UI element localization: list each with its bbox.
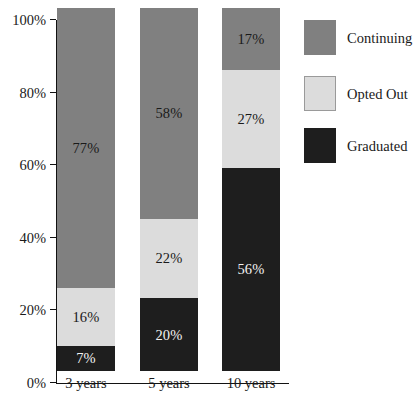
y-axis-tick-label: 100% bbox=[12, 10, 46, 30]
bar-segment-label: 56% bbox=[237, 261, 264, 277]
bar-group[interactable]: 17%27%56%10 years bbox=[222, 8, 280, 371]
legend-label: Graduated bbox=[347, 137, 407, 155]
bar-group[interactable]: 58%22%20%5 years bbox=[140, 8, 198, 371]
bar-segment-label: 7% bbox=[76, 350, 96, 366]
y-axis-tick-label: 80% bbox=[19, 83, 46, 103]
y-axis-tick-label: 0% bbox=[27, 373, 46, 393]
y-axis-tick-label: 40% bbox=[19, 228, 46, 248]
x-axis-category-label: 5 years bbox=[128, 374, 210, 392]
bar-segment[interactable]: 58% bbox=[140, 8, 198, 219]
stacked-bar[interactable]: 77%16%7% bbox=[57, 8, 115, 371]
legend-item[interactable]: Continuing bbox=[304, 20, 412, 55]
legend-label: Continuing bbox=[347, 29, 412, 47]
bar-segment[interactable]: 7% bbox=[57, 346, 115, 371]
legend-color-swatch bbox=[304, 76, 336, 111]
bar-group[interactable]: 77%16%7%3 years bbox=[57, 8, 115, 371]
bar-segment[interactable]: 56% bbox=[222, 168, 280, 371]
legend-color-swatch bbox=[304, 20, 336, 55]
x-axis-category-label: 10 years bbox=[210, 374, 292, 392]
bar-segment-label: 22% bbox=[155, 250, 182, 266]
bar-segment[interactable]: 17% bbox=[222, 8, 280, 70]
y-axis-tick-mark bbox=[50, 19, 56, 20]
legend-label: Opted Out bbox=[347, 85, 408, 103]
plot-area: 100%80%60%40%20%0% 77%16%7%3 years58%22%… bbox=[0, 0, 300, 400]
bar-segment-label: 16% bbox=[72, 309, 99, 325]
bar-segment-label: 27% bbox=[237, 111, 264, 127]
y-axis-tick-mark bbox=[50, 237, 56, 238]
bar-segment-label: 58% bbox=[155, 105, 182, 121]
bar-segment[interactable]: 20% bbox=[140, 298, 198, 371]
y-axis-tick-label: 20% bbox=[19, 300, 46, 320]
bar-segment[interactable]: 22% bbox=[140, 219, 198, 299]
bar-segment-label: 77% bbox=[72, 140, 99, 156]
caption-strip bbox=[0, 402, 417, 412]
stacked-bar-chart: 100%80%60%40%20%0% 77%16%7%3 years58%22%… bbox=[0, 0, 417, 412]
legend-item[interactable]: Opted Out bbox=[304, 76, 408, 111]
legend-color-swatch bbox=[304, 128, 336, 163]
stacked-bar[interactable]: 58%22%20% bbox=[140, 8, 198, 371]
bar-segment[interactable]: 77% bbox=[57, 8, 115, 288]
y-axis-tick-mark bbox=[50, 309, 56, 310]
legend-item[interactable]: Graduated bbox=[304, 128, 407, 163]
bar-segment-label: 17% bbox=[237, 31, 264, 47]
y-axis-tick-mark bbox=[50, 164, 56, 165]
bar-segment-label: 20% bbox=[155, 327, 182, 343]
x-axis-category-label: 3 years bbox=[45, 374, 127, 392]
stacked-bar[interactable]: 17%27%56% bbox=[222, 8, 280, 371]
bar-segment[interactable]: 16% bbox=[57, 288, 115, 346]
y-axis-tick-label: 60% bbox=[19, 155, 46, 175]
y-axis-tick-mark bbox=[50, 92, 56, 93]
bar-segment[interactable]: 27% bbox=[222, 70, 280, 168]
